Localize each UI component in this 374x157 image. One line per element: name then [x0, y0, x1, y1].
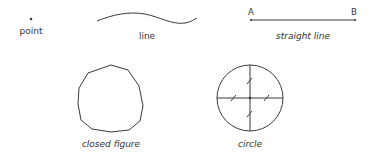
endpoint-b-label: B [351, 8, 357, 17]
geometry-diagram [0, 0, 374, 157]
circle-label: circle [238, 140, 262, 149]
endpoint-b-dot [354, 19, 356, 21]
endpoint-a-dot [250, 19, 252, 21]
point-dot [30, 18, 33, 21]
closed-figure-shape [78, 65, 143, 132]
straight-line-label: straight line [276, 32, 330, 41]
wavy-line [97, 13, 197, 23]
line-label: line [139, 32, 155, 41]
point-label: point [20, 27, 43, 36]
closed-figure-label: closed figure [82, 140, 140, 149]
endpoint-a-label: A [248, 8, 254, 17]
circle-figure [217, 65, 283, 131]
